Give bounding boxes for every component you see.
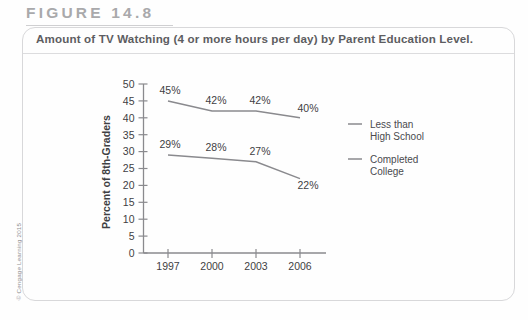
figure-panel [22, 27, 515, 301]
figure-container: FIGURE 14.8 Amount of TV Watching (4 or … [0, 0, 528, 320]
figure-caption: Amount of TV Watching (4 or more hours p… [36, 32, 496, 45]
caption-divider [23, 53, 514, 54]
figure-number-label: FIGURE 14.8 [26, 4, 154, 22]
figure-header-rule [26, 25, 173, 26]
copyright-credit: © Cengage Learning 2015 [15, 220, 22, 304]
